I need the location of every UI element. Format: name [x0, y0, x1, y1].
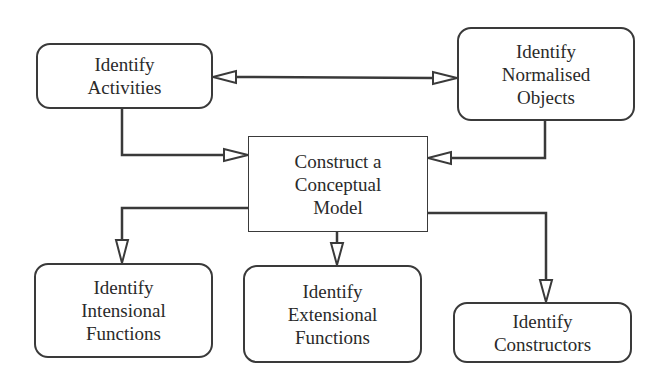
node-label: Identify Normalised Objects — [502, 40, 591, 109]
node-identify-intensional-functions: Identify Intensional Functions — [34, 263, 213, 358]
node-identify-constructors: Identify Constructors — [453, 302, 632, 363]
arrowhead-left-icon — [428, 152, 451, 164]
edge-objects-model — [451, 121, 545, 158]
arrowhead-down-icon — [331, 243, 343, 265]
node-label: Identify Activities — [88, 53, 162, 99]
arrowhead-down-icon — [116, 240, 128, 263]
edge-model-constructors — [428, 213, 546, 280]
process-diagram: Identify Activities Identify Normalised … — [0, 0, 666, 380]
node-label: Identify Extensional Functions — [288, 280, 378, 349]
node-identify-normalised-objects: Identify Normalised Objects — [457, 27, 635, 121]
arrowhead-left-icon — [213, 71, 236, 83]
node-construct-conceptual-model: Construct a Conceptual Model — [248, 136, 428, 232]
edge-activities-objects — [236, 77, 433, 78]
node-label: Identify Constructors — [494, 310, 591, 356]
arrowhead-right-icon — [224, 149, 248, 161]
node-label: Identify Intensional Functions — [81, 276, 165, 345]
arrowhead-right-icon — [433, 72, 457, 84]
arrowhead-down-icon — [540, 280, 552, 302]
edge-model-intensional — [122, 208, 248, 240]
node-label: Construct a Conceptual Model — [294, 150, 381, 219]
edge-activities-model — [122, 109, 224, 155]
node-identify-activities: Identify Activities — [36, 43, 213, 109]
node-identify-extensional-functions: Identify Extensional Functions — [243, 265, 422, 363]
